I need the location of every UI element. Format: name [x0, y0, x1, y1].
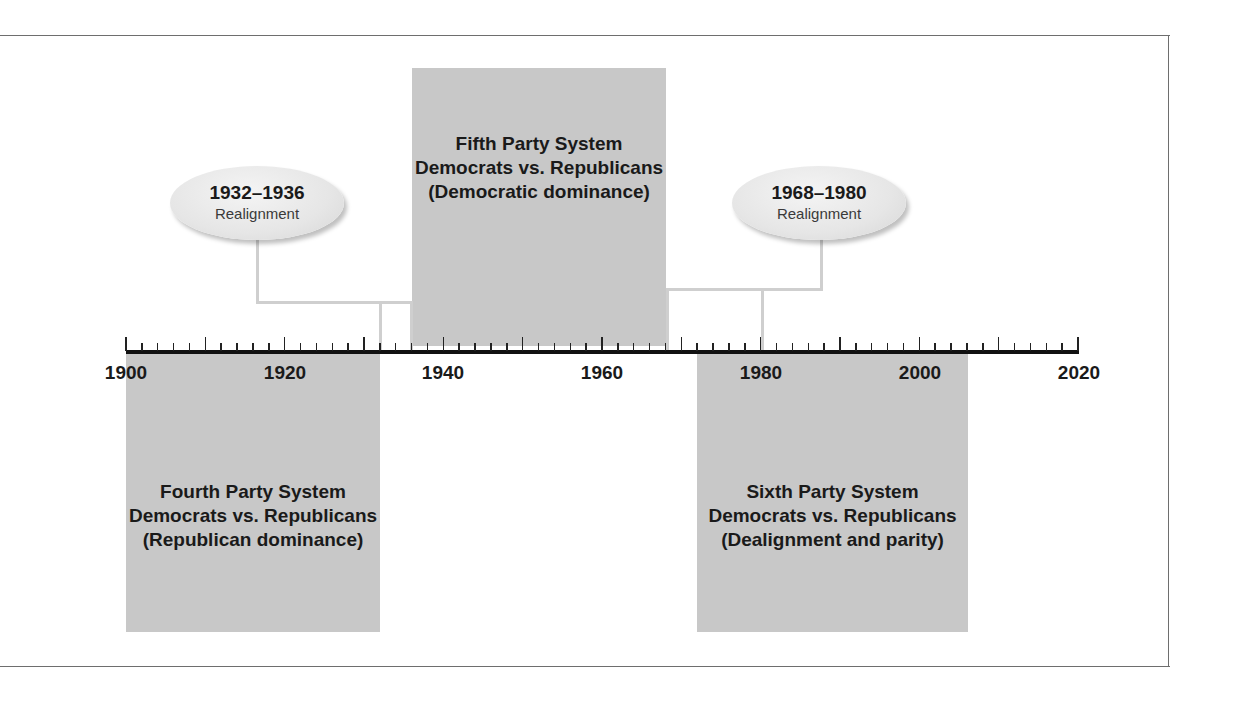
period-title: Fourth Party System [160, 480, 346, 504]
connector-left-horizontal [256, 301, 413, 304]
major-tick [681, 337, 683, 351]
minor-tick [570, 343, 572, 351]
minor-tick [633, 343, 635, 351]
minor-tick [141, 343, 143, 351]
minor-tick [538, 343, 540, 351]
tick-label-1920: 1920 [264, 362, 306, 384]
event-label: Realignment [215, 204, 299, 224]
minor-tick [776, 343, 778, 351]
period-note: (Democratic dominance) [428, 180, 650, 204]
period-box-fourth: Fourth Party System Democrats vs. Republ… [126, 352, 380, 632]
event-years: 1968–1980 [771, 182, 866, 204]
period-note: (Dealignment and parity) [721, 528, 944, 552]
minor-tick [696, 343, 698, 351]
major-tick [284, 337, 286, 351]
minor-tick [808, 343, 810, 351]
minor-tick [649, 343, 651, 351]
connector-right-horizontal [666, 288, 823, 291]
minor-tick [268, 343, 270, 351]
connector-right-drop-1980 [761, 288, 764, 351]
tick-label-1980: 1980 [740, 362, 782, 384]
minor-tick [379, 343, 381, 351]
minor-tick [506, 343, 508, 351]
major-tick [363, 337, 365, 351]
realignment-ellipse-1968: 1968–1980 Realignment [732, 166, 906, 240]
minor-tick [458, 343, 460, 351]
minor-tick [332, 343, 334, 351]
major-tick [760, 337, 762, 351]
minor-tick [934, 343, 936, 351]
minor-tick [1046, 343, 1048, 351]
minor-tick [665, 343, 667, 351]
major-tick [601, 337, 603, 351]
minor-tick [220, 343, 222, 351]
period-title: Sixth Party System [746, 480, 918, 504]
major-tick [839, 337, 841, 351]
minor-tick [411, 343, 413, 351]
major-tick [919, 337, 921, 351]
tick-label-2000: 2000 [899, 362, 941, 384]
frame-bottom-border [0, 666, 1170, 667]
minor-tick [823, 343, 825, 351]
minor-tick [871, 343, 873, 351]
connector-right-vertical-ellipse [820, 238, 823, 291]
realignment-ellipse-1932: 1932–1936 Realignment [170, 166, 344, 240]
period-parties: Democrats vs. Republicans [708, 504, 956, 528]
minor-tick [792, 343, 794, 351]
minor-tick [903, 343, 905, 351]
minor-tick [189, 343, 191, 351]
tick-label-1940: 1940 [422, 362, 464, 384]
frame-top-border [0, 35, 1170, 36]
major-tick [443, 337, 445, 351]
minor-tick [236, 343, 238, 351]
period-box-sixth: Sixth Party System Democrats vs. Republi… [697, 352, 968, 632]
major-tick [205, 337, 207, 351]
minor-tick [1014, 343, 1016, 351]
minor-tick [1061, 343, 1063, 351]
major-tick [1077, 337, 1079, 351]
period-box-fifth: Fifth Party System Democrats vs. Republi… [412, 68, 666, 346]
minor-tick [728, 343, 730, 351]
period-parties: Democrats vs. Republicans [415, 156, 663, 180]
tick-label-1900: 1900 [105, 362, 147, 384]
minor-tick [173, 343, 175, 351]
minor-tick [966, 343, 968, 351]
event-label: Realignment [777, 204, 861, 224]
minor-tick [744, 343, 746, 351]
connector-left-vertical-ellipse [256, 238, 259, 304]
minor-tick [887, 343, 889, 351]
minor-tick [1030, 343, 1032, 351]
event-years: 1932–1936 [209, 182, 304, 204]
minor-tick [617, 343, 619, 351]
minor-tick [982, 343, 984, 351]
minor-tick [554, 343, 556, 351]
connector-right-drop-1968 [666, 288, 669, 351]
minor-tick [427, 343, 429, 351]
minor-tick [474, 343, 476, 351]
major-tick [125, 337, 127, 351]
period-title: Fifth Party System [456, 132, 623, 156]
minor-tick [585, 343, 587, 351]
minor-tick [157, 343, 159, 351]
minor-tick [316, 343, 318, 351]
minor-tick [300, 343, 302, 351]
period-parties: Democrats vs. Republicans [129, 504, 377, 528]
minor-tick [712, 343, 714, 351]
tick-label-2020: 2020 [1058, 362, 1100, 384]
minor-tick [490, 343, 492, 351]
minor-tick [855, 343, 857, 351]
minor-tick [950, 343, 952, 351]
period-note: (Republican dominance) [143, 528, 364, 552]
minor-tick [252, 343, 254, 351]
major-tick [998, 337, 1000, 351]
frame-right-border [1168, 35, 1169, 667]
minor-tick [347, 343, 349, 351]
major-tick [522, 337, 524, 351]
minor-tick [395, 343, 397, 351]
tick-label-1960: 1960 [581, 362, 623, 384]
